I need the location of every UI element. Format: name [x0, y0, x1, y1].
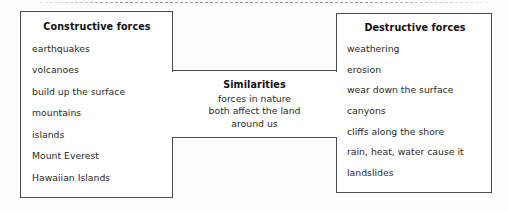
right-box-seam: [335, 72, 337, 137]
list-item: volcanoes: [32, 65, 162, 74]
similarities-box: Similarities forces in nature both affec…: [172, 70, 337, 138]
list-item: rain, heat, water cause it: [347, 147, 483, 156]
dashed-divider-line: [40, 2, 488, 3]
constructive-forces-list: earthquakes volcanoes build up the surfa…: [32, 44, 162, 182]
similarities-line: around us: [179, 118, 330, 130]
list-item: islands: [32, 130, 162, 139]
list-item: Mount Everest: [32, 151, 162, 160]
list-item: wear down the surface: [347, 85, 483, 94]
left-box-seam: [172, 72, 174, 137]
similarities-title: Similarities: [179, 79, 330, 90]
destructive-forces-title: Destructive forces: [347, 22, 483, 33]
list-item: erosion: [347, 65, 483, 74]
list-item: earthquakes: [32, 44, 162, 53]
destructive-forces-list: weathering erosion wear down the surface…: [347, 44, 483, 177]
similarities-line: forces in nature: [179, 93, 330, 105]
list-item: weathering: [347, 44, 483, 53]
list-item: build up the surface: [32, 87, 162, 96]
list-item: mountains: [32, 108, 162, 117]
list-item: canyons: [347, 106, 483, 115]
worksheet-page: Constructive forces earthquakes volcanoe…: [0, 0, 509, 212]
list-item: Hawaiian Islands: [32, 173, 162, 182]
similarities-line: both affect the land: [179, 105, 330, 117]
list-item: cliffs along the shore: [347, 127, 483, 136]
destructive-forces-box: Destructive forces weathering erosion we…: [336, 13, 492, 193]
list-item: landslides: [347, 168, 483, 177]
constructive-forces-title: Constructive forces: [32, 21, 162, 32]
constructive-forces-box: Constructive forces earthquakes volcanoe…: [20, 11, 173, 198]
